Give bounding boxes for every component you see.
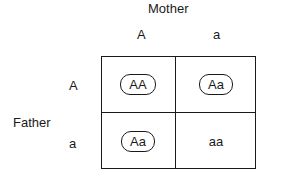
cell-aa: aa bbox=[176, 113, 256, 169]
mother-allele-1: A bbox=[137, 28, 146, 41]
mother-label: Mother bbox=[148, 2, 188, 15]
father-allele-1: A bbox=[69, 79, 78, 92]
father-allele-2: a bbox=[69, 137, 76, 150]
cell-Aa-top-right: Aa bbox=[176, 56, 256, 112]
genotype-pill: Aa bbox=[121, 131, 155, 152]
cell-Aa-bottom-left: Aa bbox=[101, 113, 175, 169]
genotype-pill: Aa bbox=[199, 74, 233, 95]
mother-allele-2: a bbox=[213, 28, 220, 41]
genotype-pill: AA bbox=[120, 74, 155, 95]
father-label: Father bbox=[13, 116, 51, 129]
genotype-text: aa bbox=[209, 135, 223, 148]
cell-AA: AA bbox=[101, 56, 175, 112]
